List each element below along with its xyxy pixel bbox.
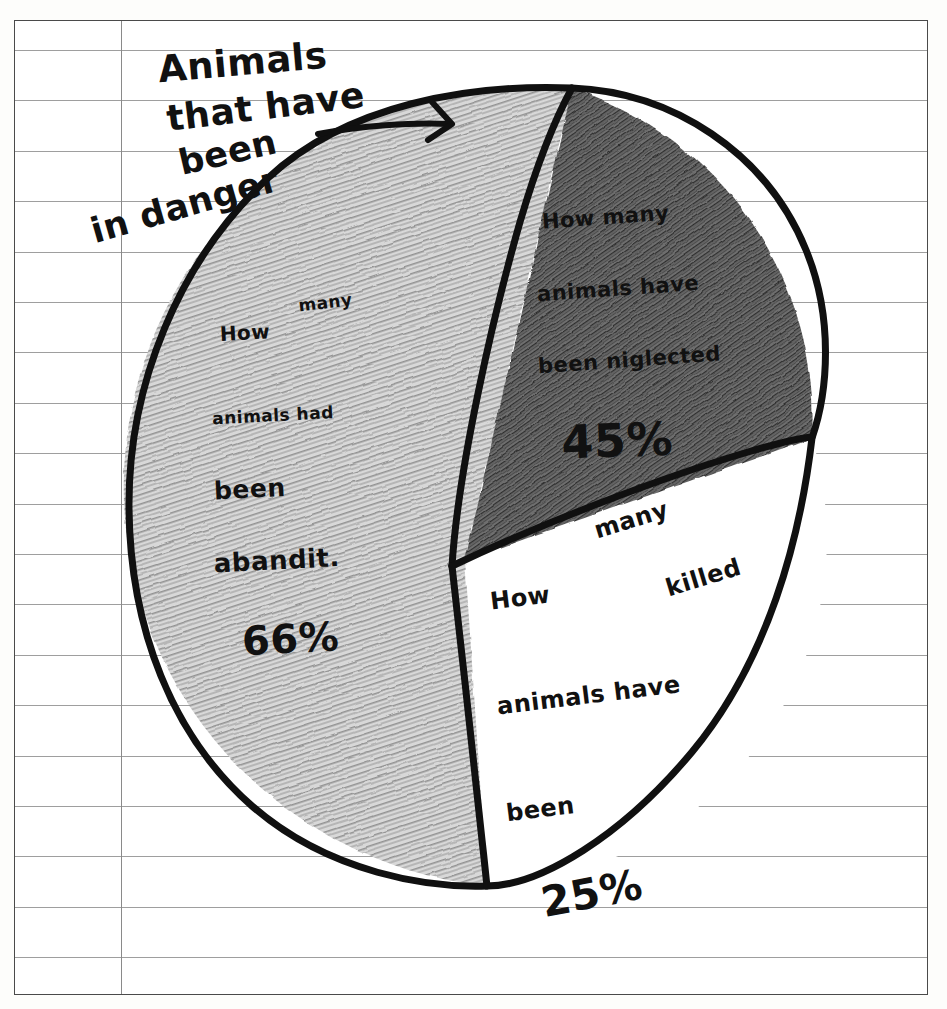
slice-label-neglected: How many animals have been niglected 45% (524, 149, 816, 516)
ruled-line (15, 756, 927, 757)
ruled-line (15, 655, 927, 656)
abandoned-line-4: abandit. (213, 538, 456, 578)
neglected-value: 45% (561, 409, 813, 466)
ruled-line (15, 554, 927, 555)
slice-label-killed: How many animals have killed been 25% (483, 507, 804, 969)
ruled-line (15, 957, 927, 958)
killed-line-2: animals have (496, 661, 773, 720)
killed-value: 25% (538, 833, 798, 925)
slice-label-abandoned: How many animals had been abandit. 66% (211, 270, 463, 705)
abandoned-value: 66% (241, 609, 461, 662)
abandoned-line-2: animals had (212, 398, 449, 428)
killed-line-3: been (505, 767, 786, 826)
ruled-line (15, 604, 927, 605)
abandoned-line-1: How (219, 312, 444, 345)
ruled-line (15, 504, 927, 505)
abandoned-line-3: been (213, 466, 452, 505)
ruled-line (15, 806, 927, 807)
notebook-page: Animals that have been in danger How man… (0, 0, 947, 1009)
neglected-line-1: How many (541, 193, 796, 233)
abandoned-line-1b: many (297, 291, 353, 315)
margin-rule-line (121, 21, 122, 994)
killed-line-2b: killed (663, 555, 744, 602)
neglected-line-3: been niglected (537, 337, 806, 378)
ruled-line (15, 705, 927, 706)
page-title: Animals that have been in danger (150, 44, 450, 145)
neglected-line-2: animals have (536, 265, 801, 305)
